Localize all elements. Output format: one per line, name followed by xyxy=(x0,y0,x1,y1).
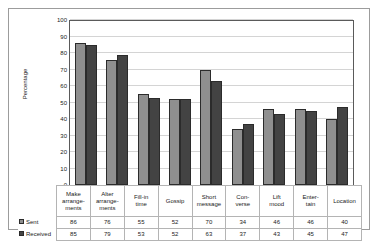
y-axis-title: Percentage xyxy=(22,44,28,124)
data-cell: 34 xyxy=(226,217,260,229)
y-axis-tick-60: 60 xyxy=(45,83,67,89)
y-axis-tick-10: 10 xyxy=(45,166,67,172)
category-label-line: tain xyxy=(294,201,327,208)
data-cell: 52 xyxy=(158,229,192,241)
category-header-cell: Makearrange-ments xyxy=(57,186,91,217)
data-cell: 79 xyxy=(90,229,124,241)
bar-received xyxy=(180,99,191,185)
data-cell: 76 xyxy=(90,217,124,229)
category-label-line: verse xyxy=(226,201,259,208)
category-label-line: Lift xyxy=(260,194,293,201)
bar-sent xyxy=(75,43,86,185)
category-header-cell: Shortmessage xyxy=(192,186,226,217)
category-header-cell: Liftmood xyxy=(260,186,294,217)
category-label-line: Con- xyxy=(226,194,259,201)
bar-received xyxy=(86,45,97,185)
gridline-100 xyxy=(70,19,353,20)
category-header-cell: Location xyxy=(328,186,362,217)
legend-swatch-icon xyxy=(19,219,24,224)
category-header-cell: Enter-tain xyxy=(294,186,328,217)
bar-group xyxy=(227,21,258,185)
category-header-cell: Con-verse xyxy=(226,186,260,217)
bar-sent xyxy=(326,119,337,185)
category-label-line: Enter- xyxy=(294,194,327,201)
bar-group xyxy=(164,21,195,185)
bar-sent xyxy=(169,99,180,185)
y-axis-tick-30: 30 xyxy=(45,133,67,139)
legend-series-label: Sent xyxy=(26,219,38,225)
data-cell: 46 xyxy=(260,217,294,229)
chart-frame: Percentage 1009080706050403020100 Makear… xyxy=(8,8,370,230)
data-cell: 47 xyxy=(328,229,362,241)
table-row: Sent867655527034464640 xyxy=(18,217,362,229)
category-label-line: Fill-in xyxy=(125,194,158,201)
bar-received xyxy=(243,124,254,185)
y-axis-tick-40: 40 xyxy=(45,116,67,122)
bar-sent xyxy=(200,70,211,186)
y-axis-tick-20: 20 xyxy=(45,149,67,155)
category-label-line: Gossip xyxy=(159,198,192,205)
data-cell: 43 xyxy=(260,229,294,241)
y-axis-tick-50: 50 xyxy=(45,100,67,106)
data-cell: 63 xyxy=(192,229,226,241)
table-header-row: Makearrange-mentsAlterarrange-mentsFill-… xyxy=(18,186,362,217)
bar-group xyxy=(290,21,321,185)
bar-received xyxy=(337,107,348,185)
category-label-line: time xyxy=(125,201,158,208)
y-axis-tick-100: 100 xyxy=(45,17,67,23)
bar-group xyxy=(259,21,290,185)
category-label-line: Make xyxy=(57,191,90,198)
category-header-cell: Alterarrange-ments xyxy=(90,186,124,217)
category-label-line: ments xyxy=(91,205,124,212)
bar-received xyxy=(274,114,285,185)
data-cell: 85 xyxy=(57,229,91,241)
bar-received xyxy=(117,55,128,185)
data-cell: 46 xyxy=(294,217,328,229)
bar-sent xyxy=(138,94,149,185)
bar-sent xyxy=(232,129,243,185)
y-axis-tick-90: 90 xyxy=(45,34,67,40)
category-label-line: message xyxy=(193,201,226,208)
data-cell: 70 xyxy=(192,217,226,229)
category-label-line: arrange- xyxy=(91,198,124,205)
y-axis-tick-labels: 1009080706050403020100 xyxy=(45,9,67,185)
bar-group xyxy=(322,21,353,185)
data-cell: 53 xyxy=(124,229,158,241)
category-header-cell: Fill-intime xyxy=(124,186,158,217)
table-row: Received857953526337434547 xyxy=(18,229,362,241)
data-cell: 37 xyxy=(226,229,260,241)
bar-sent xyxy=(106,60,117,185)
legend-swatch-icon xyxy=(19,231,24,236)
plot-area xyxy=(69,20,354,185)
bar-sent xyxy=(263,109,274,185)
category-label-line: arrange- xyxy=(57,198,90,205)
data-cell: 86 xyxy=(57,217,91,229)
legend-header-cell xyxy=(18,186,57,217)
data-cell: 52 xyxy=(158,217,192,229)
bar-received xyxy=(149,98,160,185)
category-label-line: ments xyxy=(57,205,90,212)
bars-layer xyxy=(70,21,353,185)
category-header-cell: Gossip xyxy=(158,186,192,217)
y-axis-tick-80: 80 xyxy=(45,50,67,56)
bar-group xyxy=(70,21,101,185)
category-label-line: Location xyxy=(328,198,361,205)
y-axis-tick-70: 70 xyxy=(45,67,67,73)
bar-sent xyxy=(295,109,306,185)
bar-received xyxy=(211,81,222,185)
bar-group xyxy=(196,21,227,185)
category-label-line: mood xyxy=(260,201,293,208)
category-label-line: Alter xyxy=(91,191,124,198)
bar-group xyxy=(101,21,132,185)
data-cell: 40 xyxy=(328,217,362,229)
bar-group xyxy=(133,21,164,185)
category-label-line: Short xyxy=(193,194,226,201)
legend-series-label: Received xyxy=(26,231,51,237)
legend-item-received: Received xyxy=(18,229,57,241)
plot-region: Percentage 1009080706050403020100 xyxy=(9,9,371,185)
legend-item-sent: Sent xyxy=(18,217,57,229)
data-cell: 55 xyxy=(124,217,158,229)
bar-received xyxy=(306,111,317,185)
data-cell: 45 xyxy=(294,229,328,241)
data-table: Makearrange-mentsAlterarrange-mentsFill-… xyxy=(18,185,362,241)
